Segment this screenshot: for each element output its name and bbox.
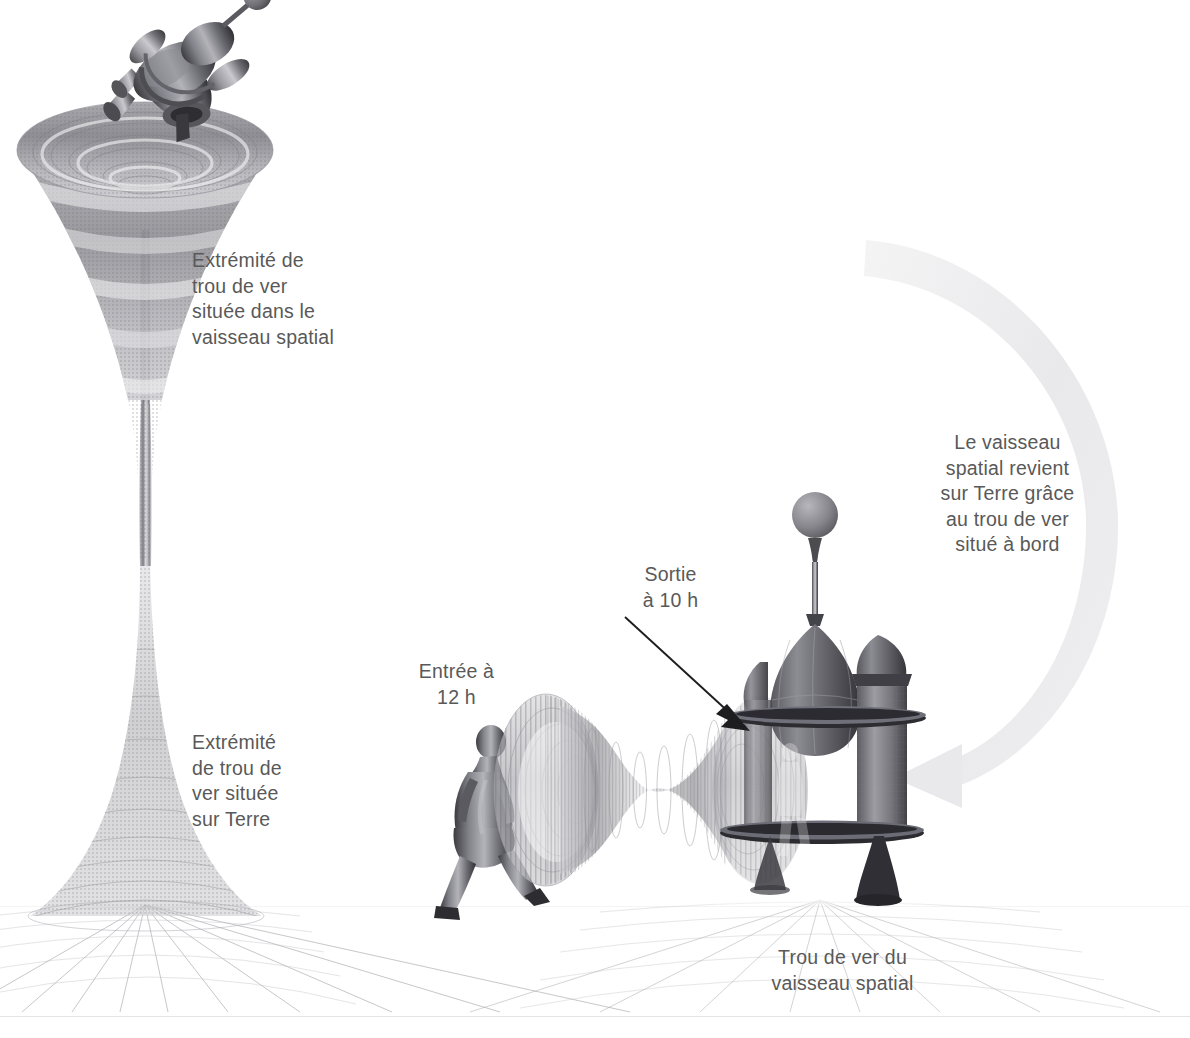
wormhole-mouth-icon <box>17 102 273 198</box>
bottom-margin-strip <box>0 1017 1190 1038</box>
label-exit-time: Sortie à 10 h <box>603 562 738 613</box>
label-entry-time: Entrée à 12 h <box>384 659 529 710</box>
figure-canvas: Extrémité de trou de ver située dans le … <box>0 0 1190 1038</box>
pointer-arrow-icon <box>625 617 750 731</box>
sphere-icon <box>792 492 838 538</box>
label-wormhole-end-earth: Extrémité de trou de ver située sur Terr… <box>192 730 377 832</box>
label-return-note: Le vaisseau spatial revient sur Terre gr… <box>925 430 1090 558</box>
label-wormhole-end-ship: Extrémité de trou de ver située dans le … <box>192 248 407 350</box>
label-ship-wormhole: Trou de ver du vaisseau spatial <box>740 945 945 996</box>
